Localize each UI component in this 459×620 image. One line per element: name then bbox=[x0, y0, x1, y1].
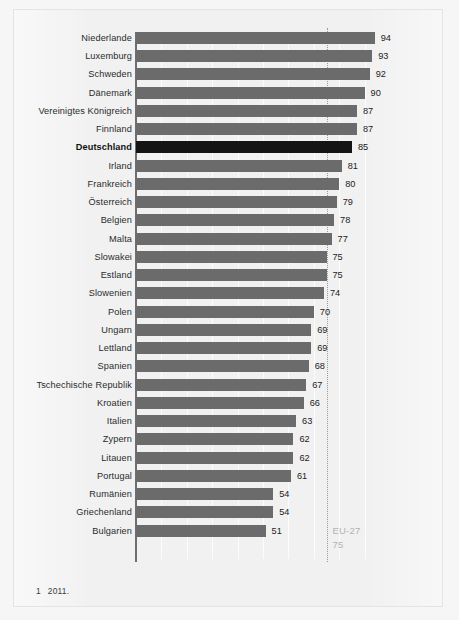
footnote: 12011. bbox=[36, 586, 69, 596]
bar-category-label: Schweden bbox=[88, 69, 132, 79]
bar-row: Dänemark90 bbox=[0, 84, 459, 102]
bar-category-label: Vereinigtes Königreich bbox=[38, 106, 132, 116]
bar bbox=[136, 379, 306, 391]
bar-row: Lettland69 bbox=[0, 339, 459, 357]
bar-value-label: 51 bbox=[272, 526, 282, 536]
bar-value-label: 70 bbox=[320, 307, 330, 317]
bar bbox=[136, 360, 309, 372]
bar-row-highlighted: Deutschland85 bbox=[0, 138, 459, 156]
bar-row: Finnland87 bbox=[0, 120, 459, 138]
bar-value-label: 93 bbox=[378, 51, 388, 61]
bar bbox=[136, 488, 273, 500]
bar bbox=[136, 160, 342, 172]
bar-category-label: Griechenland bbox=[76, 507, 132, 517]
bar-row: Schweden92 bbox=[0, 65, 459, 83]
bar-value-label: 94 bbox=[381, 33, 391, 43]
bar bbox=[136, 87, 365, 99]
bar-row: Kroatien66 bbox=[0, 394, 459, 412]
bar-category-label: Österreich bbox=[89, 197, 132, 207]
bar-row: Luxemburg93 bbox=[0, 47, 459, 65]
bar-row: Zypern62 bbox=[0, 430, 459, 448]
bar-row: Niederlande94 bbox=[0, 29, 459, 47]
bar-category-label: Ungarn bbox=[101, 325, 132, 335]
bar-row: Polen70 bbox=[0, 303, 459, 321]
bar-value-label: 63 bbox=[302, 416, 312, 426]
bar-row: Litauen62 bbox=[0, 449, 459, 467]
bar-category-label: Bulgarien bbox=[92, 526, 132, 536]
bar bbox=[136, 68, 370, 80]
bar bbox=[136, 506, 273, 518]
bar-value-label: 78 bbox=[340, 215, 350, 225]
bar-category-label: Irland bbox=[108, 161, 132, 171]
bar-value-label: 54 bbox=[279, 489, 289, 499]
eu27-reference-value: 75 bbox=[333, 539, 344, 551]
bar-value-label: 92 bbox=[376, 69, 386, 79]
bar-category-label: Zypern bbox=[103, 434, 132, 444]
bar bbox=[136, 324, 311, 336]
bar-value-label: 74 bbox=[330, 288, 340, 298]
bar bbox=[136, 178, 339, 190]
bar-row: Irland81 bbox=[0, 157, 459, 175]
bar-category-label: Kroatien bbox=[97, 398, 132, 408]
bar-chart: EU-2775 Niederlande94Luxemburg93Schweden… bbox=[0, 0, 459, 620]
bar bbox=[136, 233, 332, 245]
bar-value-label: 75 bbox=[333, 270, 343, 280]
bar-row: Frankreich80 bbox=[0, 175, 459, 193]
bar bbox=[136, 105, 357, 117]
bar-category-label: Tschechische Republik bbox=[36, 380, 132, 390]
bar-value-label: 85 bbox=[358, 142, 368, 152]
bar-value-label: 66 bbox=[310, 398, 320, 408]
bar-category-label: Slowakei bbox=[94, 252, 132, 262]
bar-value-label: 80 bbox=[345, 179, 355, 189]
bar-value-label: 69 bbox=[317, 343, 327, 353]
bar-category-label: Dänemark bbox=[89, 88, 132, 98]
bar-row: Estland75 bbox=[0, 266, 459, 284]
bar bbox=[136, 214, 334, 226]
bar-value-label: 87 bbox=[363, 106, 373, 116]
bar-row: Österreich79 bbox=[0, 193, 459, 211]
bar-row: Italien63 bbox=[0, 412, 459, 430]
bar-category-label: Malta bbox=[109, 234, 132, 244]
bar-category-label: Rumänien bbox=[89, 489, 132, 499]
bar-row: Spanien68 bbox=[0, 357, 459, 375]
bar bbox=[136, 287, 324, 299]
bar-value-label: 54 bbox=[279, 507, 289, 517]
bar-row: Bulgarien51 bbox=[0, 522, 459, 540]
bar-category-label: Estland bbox=[101, 270, 132, 280]
bar bbox=[136, 123, 357, 135]
bar bbox=[136, 141, 352, 153]
bar bbox=[136, 397, 304, 409]
bar-value-label: 79 bbox=[343, 197, 353, 207]
bar-value-label: 62 bbox=[299, 434, 309, 444]
bar bbox=[136, 50, 372, 62]
bar-category-label: Italien bbox=[107, 416, 132, 426]
bar-category-label: Deutschland bbox=[76, 142, 132, 152]
footnote-text: 2011. bbox=[48, 586, 69, 596]
bar-category-label: Luxemburg bbox=[85, 51, 132, 61]
bar-row: Slowakei75 bbox=[0, 248, 459, 266]
bar bbox=[136, 196, 337, 208]
bar-category-label: Niederlande bbox=[81, 33, 132, 43]
bar-row: Tschechische Republik67 bbox=[0, 376, 459, 394]
bar-category-label: Litauen bbox=[101, 453, 132, 463]
bar-category-label: Slowenien bbox=[89, 288, 132, 298]
bar bbox=[136, 306, 314, 318]
bar bbox=[136, 433, 293, 445]
bar-value-label: 77 bbox=[338, 234, 348, 244]
bar-value-label: 81 bbox=[348, 161, 358, 171]
bar-row: Vereinigtes Königreich87 bbox=[0, 102, 459, 120]
bar bbox=[136, 452, 293, 464]
bar-value-label: 90 bbox=[371, 88, 381, 98]
bar-row: Ungarn69 bbox=[0, 321, 459, 339]
bar-category-label: Polen bbox=[108, 307, 132, 317]
bar-value-label: 68 bbox=[315, 361, 325, 371]
bar-category-label: Spanien bbox=[98, 361, 132, 371]
bar-row: Belgien78 bbox=[0, 211, 459, 229]
bar-category-label: Belgien bbox=[101, 215, 132, 225]
page: EU-2775 Niederlande94Luxemburg93Schweden… bbox=[0, 0, 459, 620]
bar-row: Portugal61 bbox=[0, 467, 459, 485]
bar-row: Malta77 bbox=[0, 230, 459, 248]
bar-row: Slowenien74 bbox=[0, 284, 459, 302]
footnote-marker: 1 bbox=[36, 586, 41, 596]
bar-value-label: 61 bbox=[297, 471, 307, 481]
